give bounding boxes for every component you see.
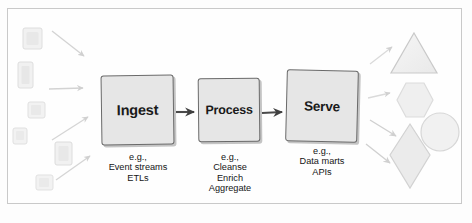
pipeline-diagram-figure: Ingest Process Serve e.g., Event streams… (0, 0, 472, 223)
input-arrow-1 (52, 31, 84, 56)
output-arrow-4 (366, 144, 390, 163)
stage-caption-serve: e.g., Data marts APIs (276, 146, 368, 177)
output-arrow-2 (368, 93, 390, 98)
output-arrows-group (366, 47, 396, 163)
input-rect-5-inner (59, 146, 69, 161)
input-arrow-3 (52, 117, 88, 140)
input-rect-3-inner (31, 105, 41, 115)
output-shapes-group (390, 33, 459, 188)
input-rect-4-inner (16, 131, 24, 140)
output-arrow-1 (370, 47, 392, 64)
stage-box-process[interactable]: Process (198, 78, 261, 143)
stage-label-serve: Serve (304, 98, 340, 114)
input-rect-2-inner (22, 66, 30, 84)
stage-box-ingest[interactable]: Ingest (101, 74, 175, 145)
stage-label-ingest: Ingest (117, 102, 159, 119)
stage-box-serve[interactable]: Serve (285, 69, 359, 143)
input-rect-6-inner (39, 178, 49, 187)
output-arrow-3 (370, 120, 396, 136)
connector-process-to-serve (262, 112, 282, 113)
input-shapes-group (13, 28, 72, 190)
stage-caption-ingest: e.g., Event streams ETLs (88, 152, 188, 183)
stage-caption-process: e.g., Cleanse Enrich Aggregate (186, 152, 274, 194)
output-circle (421, 113, 459, 151)
input-arrow-2 (49, 88, 83, 89)
stage-label-process: Process (205, 103, 252, 117)
output-hexagon (397, 83, 433, 117)
input-rect-1-inner (27, 32, 39, 45)
output-triangle (391, 33, 437, 73)
